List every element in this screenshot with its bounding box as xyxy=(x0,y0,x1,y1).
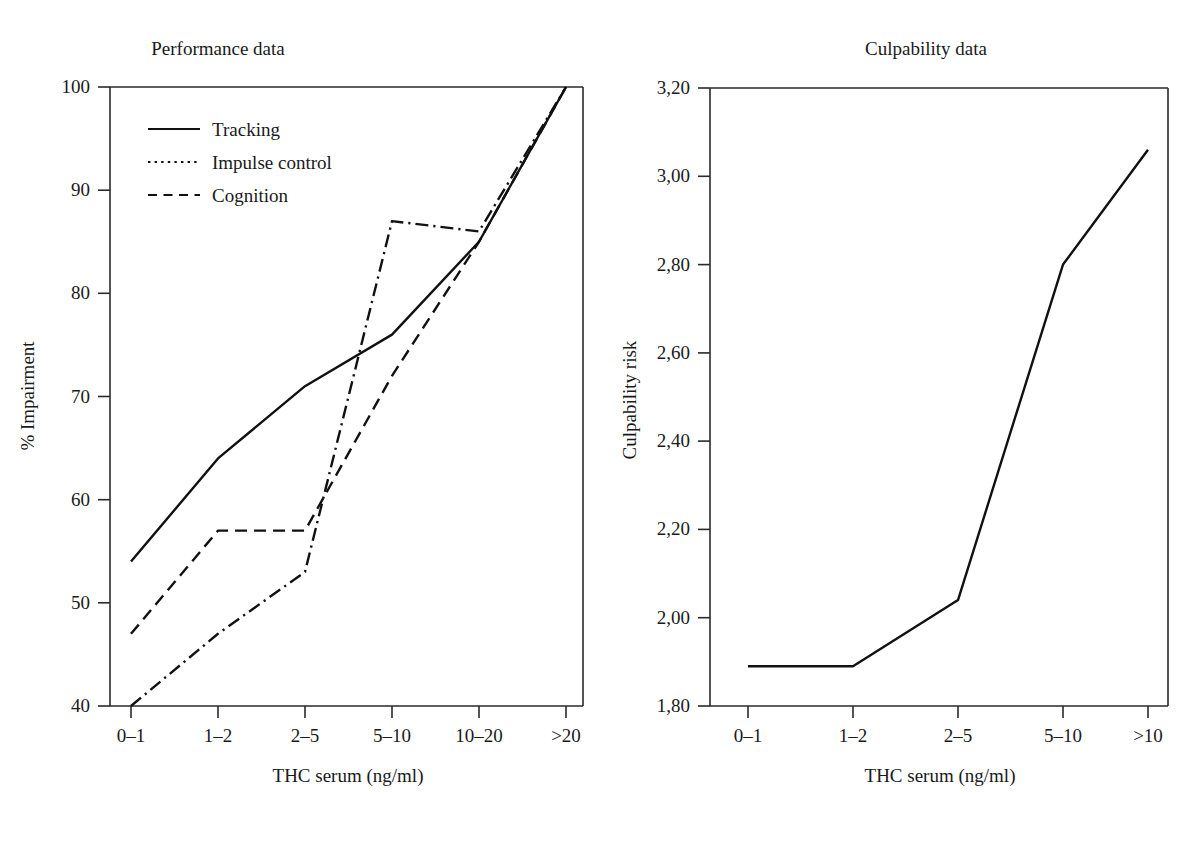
y-tick-label: 2,80 xyxy=(657,254,690,275)
legend: Tracking Impulse control Cognition xyxy=(148,119,332,206)
x-tick-label: 1–2 xyxy=(839,725,868,746)
x-tick-label: 2–5 xyxy=(291,725,320,746)
y-tick-label: 3,00 xyxy=(657,165,690,186)
legend-label-tracking: Tracking xyxy=(212,119,280,140)
x-tick-label: >20 xyxy=(551,725,581,746)
y-tick-label: 1,80 xyxy=(657,695,690,716)
figure-root: Performance data 40 50 60 70 80 90 100 xyxy=(0,0,1196,844)
y-tick-label: 90 xyxy=(71,179,90,200)
y-axis-title: Culpability risk xyxy=(619,340,640,459)
series-line-culpability-risk xyxy=(748,150,1148,666)
y-tick-label: 50 xyxy=(71,592,90,613)
y-tick-label: 2,00 xyxy=(657,607,690,628)
x-tick-label: 0–1 xyxy=(117,725,146,746)
y-tick-label: 3,20 xyxy=(657,77,690,98)
x-tick-label: 5–10 xyxy=(1044,725,1082,746)
x-tick-label: 10–20 xyxy=(455,725,503,746)
x-tick-label: 1–2 xyxy=(204,725,233,746)
y-tick-label: 100 xyxy=(62,76,91,97)
legend-label-cognition: Cognition xyxy=(212,185,289,206)
panel-performance: Performance data 40 50 60 70 80 90 100 xyxy=(0,0,600,844)
legend-label-impulse-control: Impulse control xyxy=(212,152,332,173)
performance-plot: 40 50 60 70 80 90 100 % Impairment 0–1 1… xyxy=(0,0,600,844)
y-axis-title: % Impairment xyxy=(17,341,38,451)
x-axis-title: THC serum (ng/ml) xyxy=(273,765,424,787)
x-tick-label: 0–1 xyxy=(734,725,763,746)
x-tick-label: 5–10 xyxy=(373,725,411,746)
series-line-impulse-control xyxy=(131,87,566,706)
panel-culpability: Culpability data 1,80 2,00 2,20 2,40 2,6… xyxy=(600,0,1196,844)
y-tick-label: 2,20 xyxy=(657,518,690,539)
y-tick-label: 2,40 xyxy=(657,430,690,451)
y-tick-label: 2,60 xyxy=(657,342,690,363)
x-tick-label: 2–5 xyxy=(944,725,973,746)
x-axis-title: THC serum (ng/ml) xyxy=(865,765,1016,787)
culpability-plot: 1,80 2,00 2,20 2,40 2,60 2,80 3,00 3,20 … xyxy=(600,0,1196,844)
series-line-tracking xyxy=(131,87,566,562)
y-tick-label: 40 xyxy=(71,695,90,716)
y-tick-label: 60 xyxy=(71,489,90,510)
y-tick-label: 70 xyxy=(71,386,90,407)
x-tick-label: >10 xyxy=(1133,725,1163,746)
y-tick-label: 80 xyxy=(71,282,90,303)
